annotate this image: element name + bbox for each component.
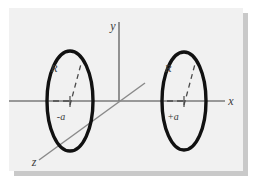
right-coil-radius-dash [184,64,195,105]
left-coil-radius-dash [70,64,81,105]
left-coil-radius-label: R [50,62,58,74]
figure-root: x y z R -a R +a [0,0,257,188]
y-axis-label: y [109,19,116,33]
coil-diagram-svg: x y z R -a R +a [9,8,243,171]
right-coil-position-label: +a [167,111,179,122]
left-coil-position-label: -a [57,111,65,122]
diagram-panel: x y z R -a R +a [9,8,243,171]
z-axis-label: z [31,155,37,169]
right-coil-radius-label: R [164,62,172,74]
x-axis-label: x [227,94,234,108]
